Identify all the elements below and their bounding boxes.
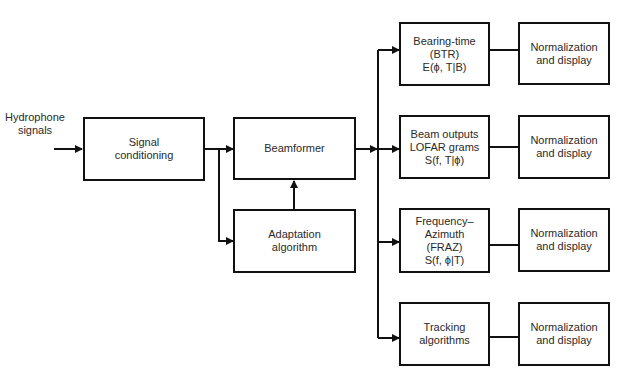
normalization-display-block-1: Normalization and display (518, 22, 610, 85)
beamformer-block: Beamformer (233, 117, 356, 180)
tracking-label: Tracking algorithms (419, 321, 470, 347)
btr-block: Bearing-time (BTR) E(ϕ, T|B) (399, 22, 490, 86)
lofar-label: Beam outputs LOFAR grams S(f, T|ϕ) (410, 128, 480, 167)
normalization-display-label-2: Normalization and display (530, 134, 597, 160)
tracking-block: Tracking algorithms (399, 302, 490, 366)
fraz-label: Frequency– Azimuth (FRAZ) S(f, ϕ|T) (415, 215, 473, 267)
input-label: Hydrophone signals (4, 111, 66, 137)
signal-conditioning-block: Signal conditioning (83, 117, 205, 181)
lofar-block: Beam outputs LOFAR grams S(f, T|ϕ) (399, 115, 490, 179)
normalization-display-label-3: Normalization and display (530, 227, 597, 253)
normalization-display-block-2: Normalization and display (518, 115, 610, 179)
normalization-display-label-4: Normalization and display (530, 321, 597, 347)
btr-label: Bearing-time (BTR) E(ϕ, T|B) (413, 35, 475, 74)
adaptation-algorithm-block: Adaptation algorithm (233, 209, 356, 273)
beamformer-label: Beamformer (264, 142, 325, 155)
adaptation-algorithm-label: Adaptation algorithm (268, 228, 321, 254)
normalization-display-block-4: Normalization and display (518, 302, 610, 366)
normalization-display-block-3: Normalization and display (518, 208, 610, 272)
signal-conditioning-label: Signal conditioning (115, 136, 174, 162)
normalization-display-label-1: Normalization and display (530, 41, 597, 67)
fraz-block: Frequency– Azimuth (FRAZ) S(f, ϕ|T) (399, 208, 490, 273)
